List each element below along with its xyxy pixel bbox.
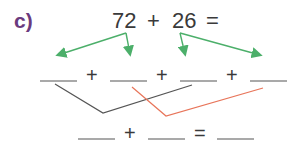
result-plus: + xyxy=(124,122,136,145)
tens-link xyxy=(55,84,192,113)
partition-plus-1: + xyxy=(86,64,98,87)
ones-link xyxy=(132,87,263,116)
partition-plus-3: + xyxy=(226,64,238,87)
diagram-lines xyxy=(0,0,300,148)
result-equals: = xyxy=(194,122,206,145)
partition-arrows xyxy=(58,33,260,55)
partition-plus-2: + xyxy=(156,64,168,87)
